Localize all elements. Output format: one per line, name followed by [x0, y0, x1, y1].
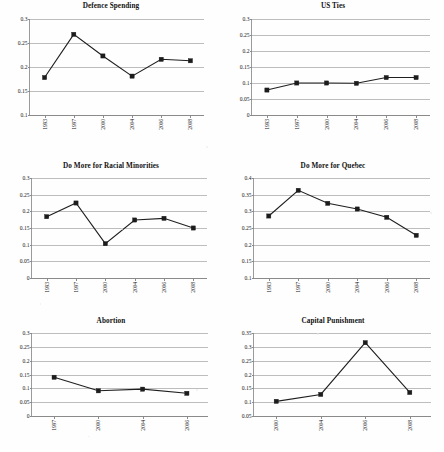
x-tick-mark: [76, 278, 77, 281]
data-point-marker: [326, 201, 330, 205]
y-tick-label: 0.3: [245, 208, 252, 214]
plot-frame: 00.050.10.150.20.250.3199319972000200420…: [31, 178, 207, 278]
y-tick-label: 0.1: [23, 385, 30, 391]
y-tick-mark: [30, 278, 33, 279]
plot-frame: 0.050.10.150.20.250.30.35200020042006200…: [253, 333, 431, 416]
x-tick-mark: [297, 115, 298, 118]
y-tick-label: 0.05: [242, 413, 252, 419]
data-point-marker: [363, 341, 367, 345]
data-point-marker: [414, 75, 418, 79]
y-tick-mark: [28, 115, 31, 116]
data-point-marker: [45, 215, 49, 219]
data-point-marker: [385, 215, 389, 219]
x-tick-label: 2000: [325, 282, 331, 293]
chart-title: Abortion: [0, 317, 222, 325]
x-tick-mark: [190, 115, 191, 118]
x-tick-mark: [327, 115, 328, 118]
series-line: [276, 343, 410, 402]
data-series: [30, 19, 205, 115]
plot-area: 0.10.150.20.250.30.350.41993199720002004…: [253, 178, 430, 278]
data-point-marker: [274, 399, 278, 403]
x-tick-label: 2004: [354, 282, 360, 293]
data-point-marker: [130, 74, 134, 78]
y-tick-label: 0.25: [242, 358, 252, 364]
chart-title: Do More for Quebec: [222, 162, 444, 170]
y-tick-label: 0.35: [242, 330, 252, 336]
data-point-marker: [72, 32, 76, 36]
x-tick-label: 1993: [266, 282, 272, 293]
x-tick-label: 2006: [384, 282, 390, 293]
x-tick-mark: [45, 115, 46, 118]
y-tick-label: 0.15: [242, 258, 252, 264]
y-tick-label: 0.35: [242, 192, 252, 198]
x-tick-label: 2004: [129, 119, 135, 130]
data-point-marker: [185, 391, 189, 395]
series-line: [54, 377, 187, 393]
y-tick-label: 0.3: [245, 344, 252, 350]
data-point-marker: [354, 81, 358, 85]
y-tick-label: 0: [27, 275, 30, 281]
plot-frame: 00.050.10.150.20.250.3199319972000200420…: [251, 19, 430, 115]
x-tick-mark: [47, 278, 48, 281]
y-tick-mark: [30, 416, 33, 417]
x-tick-label: 1993: [42, 119, 48, 130]
data-point-marker: [355, 207, 359, 211]
y-tick-label: 0.15: [20, 372, 30, 378]
x-tick-label: 1997: [295, 282, 301, 293]
y-tick-label: 0.05: [240, 96, 250, 102]
series-line: [47, 203, 194, 244]
series-line: [269, 190, 417, 235]
plot-frame: 0.10.150.20.250.30.350.41993199720002004…: [253, 178, 430, 278]
x-tick-mark: [143, 416, 144, 419]
y-tick-label: 0.1: [243, 80, 250, 86]
data-point-marker: [52, 375, 56, 379]
series-line: [267, 78, 416, 90]
y-tick-label: 0.25: [18, 40, 28, 46]
x-tick-label: 2000: [273, 420, 279, 431]
chart-panel: Capital Punishment0.050.10.150.20.250.30…: [222, 315, 444, 452]
y-tick-label: 0.1: [245, 275, 252, 281]
y-tick-label: 0.1: [23, 242, 30, 248]
x-tick-mark: [387, 278, 388, 281]
x-tick-label: 2006: [383, 119, 389, 130]
plot-area: 0.050.10.150.20.250.30.35200020042006200…: [253, 333, 431, 416]
x-tick-label: 1993: [264, 119, 270, 130]
y-tick-label: 0: [27, 413, 30, 419]
x-tick-label: 2004: [318, 420, 324, 431]
data-point-marker: [296, 188, 300, 192]
y-tick-mark: [252, 416, 255, 417]
plot-area: 00.050.10.150.20.250.3199319972000200420…: [31, 178, 207, 278]
x-tick-label: 1993: [44, 282, 50, 293]
y-gridline: [252, 115, 430, 116]
y-tick-label: 0.15: [18, 88, 28, 94]
x-tick-label: 2004: [353, 119, 359, 130]
x-tick-mark: [103, 115, 104, 118]
x-tick-mark: [267, 115, 268, 118]
data-point-marker: [324, 81, 328, 85]
x-tick-label: 2006: [158, 119, 164, 130]
y-tick-label: 0: [247, 112, 250, 118]
data-point-marker: [101, 54, 105, 58]
y-tick-label: 0.2: [23, 208, 30, 214]
y-gridline: [32, 416, 208, 417]
y-tick-label: 0.3: [243, 16, 250, 22]
data-point-marker: [96, 389, 100, 393]
y-tick-label: 0.2: [245, 242, 252, 248]
x-tick-mark: [386, 115, 387, 118]
data-point-marker: [159, 57, 163, 61]
chart-panel: Abortion00.050.10.150.20.250.31997200020…: [0, 315, 222, 452]
chart-panel: Defence Spending0.10.150.20.250.31993199…: [0, 0, 222, 160]
data-series: [252, 19, 431, 115]
x-tick-label: 1997: [73, 282, 79, 293]
x-tick-label: 2000: [102, 282, 108, 293]
y-tick-label: 0.25: [20, 344, 30, 350]
y-gridline: [32, 278, 207, 279]
data-point-marker: [265, 88, 269, 92]
y-tick-label: 0.15: [242, 385, 252, 391]
x-tick-mark: [357, 278, 358, 281]
data-point-marker: [133, 218, 137, 222]
data-point-marker: [74, 201, 78, 205]
y-gridline: [254, 278, 430, 279]
x-tick-mark: [135, 278, 136, 281]
plot-frame: 00.050.10.150.20.250.31997200020042006: [31, 333, 208, 416]
